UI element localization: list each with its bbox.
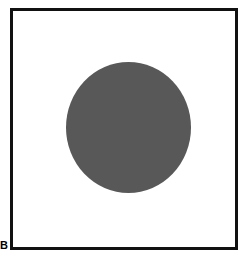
figure-panel: B — [0, 0, 247, 258]
panel-frame — [10, 8, 238, 250]
gray-circle-shape — [66, 62, 191, 193]
panel-label: B — [0, 238, 10, 252]
panel-canvas — [13, 11, 235, 247]
